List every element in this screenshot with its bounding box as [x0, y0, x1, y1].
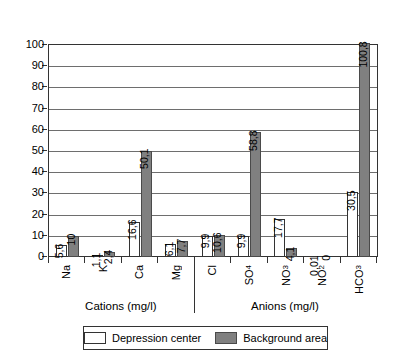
bar-value-label: 58,8 [248, 130, 259, 150]
legend-item: Depression center [84, 332, 201, 344]
y-tick-label: 100 [10, 39, 44, 50]
x-tick-mark [48, 257, 49, 263]
bar-value-label: 30,5 [346, 190, 357, 210]
bar-group: 9,910,6 [202, 45, 225, 257]
x-category-K: K [98, 265, 109, 272]
bar-chart: 0102030405060708090100 5,6101,12,416,650… [0, 0, 410, 363]
legend-item: Background area [215, 332, 327, 344]
y-tick-label: 0 [10, 251, 44, 262]
y-tick-label: 10 [10, 230, 44, 241]
y-tick-label: 60 [10, 124, 44, 135]
x-category-Ca: Ca [134, 265, 145, 279]
y-tick-label: 40 [10, 166, 44, 177]
y-axis-labels: 0102030405060708090100 [6, 44, 44, 257]
y-tick-label: 30 [10, 187, 44, 198]
bar-value-label: 100,8 [358, 41, 369, 67]
bar-group: 16,650,1 [129, 45, 152, 257]
x-tick-mark [340, 257, 341, 263]
x-category-Na: Na [61, 265, 72, 279]
y-tick-label: 20 [10, 209, 44, 220]
bar-HCO3-background [359, 43, 370, 257]
x-category-Mg: Mg [171, 265, 182, 280]
anions-caption: Anions (mg/l) [194, 300, 376, 312]
y-tick-label: 50 [10, 145, 44, 156]
x-tick-mark [376, 257, 377, 263]
bar-value-label: 17,7 [273, 217, 284, 237]
bar-value-label: 6,1 [164, 242, 175, 257]
bars-layer: 5,6101,12,416,650,16,17,79,910,69,958,81… [49, 45, 377, 257]
chart-legend: Depression centerBackground area [83, 326, 328, 350]
y-tick-label: 80 [10, 81, 44, 92]
x-category-SO4: SO4 [243, 265, 255, 285]
x-axis-ticks [48, 257, 378, 264]
bar-group: 9,958,8 [238, 45, 261, 257]
x-category-NO3: NO3 [280, 265, 292, 286]
bar-group: 5,610 [56, 45, 79, 257]
x-tick-mark [267, 257, 268, 263]
y-tick-label: 90 [10, 60, 44, 71]
bar-value-label: 7,7 [176, 239, 187, 254]
bar-value-label: 9,9 [200, 234, 211, 249]
cations-caption: Cations (mg/l) [48, 300, 194, 312]
bar-group: 17,74,1 [274, 45, 297, 257]
bar-SO4-background [250, 132, 261, 257]
y-tick-label: 70 [10, 103, 44, 114]
x-tick-mark [121, 257, 122, 263]
bar-group: 30,5100,8 [347, 45, 370, 257]
bar-group: 1,12,4 [92, 45, 115, 257]
bar-value-label: 10 [66, 234, 77, 246]
bar-value-label: 10,6 [212, 233, 223, 253]
bar-value-label: 50,1 [139, 149, 150, 169]
bar-value-label: 9,9 [236, 234, 247, 249]
bar-group: 0,010 [311, 45, 334, 257]
bar-value-label: 5,6 [54, 243, 65, 258]
x-tick-mark [303, 257, 304, 263]
x-tick-mark [230, 257, 231, 263]
x-category-NO2: NO2 [316, 265, 328, 286]
x-tick-mark [157, 257, 158, 263]
x-axis-category-labels: NaKCaMgClSO4NO3NO2HCO3 [48, 265, 378, 305]
legend-swatch-background [215, 332, 237, 344]
bar-value-label: 16,6 [127, 220, 138, 240]
legend-label: Background area [243, 333, 327, 344]
legend-label: Depression center [112, 333, 201, 344]
x-category-Cl: Cl [207, 265, 218, 275]
bar-group: 6,17,7 [165, 45, 188, 257]
x-tick-mark [84, 257, 85, 263]
legend-swatch-depression [84, 332, 106, 344]
x-category-HCO3: HCO3 [353, 265, 365, 294]
